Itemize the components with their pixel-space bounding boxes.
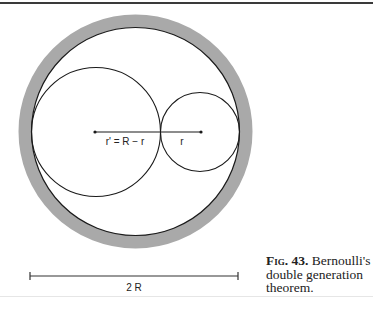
figure-number: Fig. 43.	[266, 253, 308, 268]
scale-label: 2 R	[126, 282, 142, 293]
big-radius-label: r' = R − r	[106, 136, 145, 147]
caption-line-3: theorem.	[266, 281, 373, 295]
large-center-dot	[93, 130, 96, 133]
figure-caption: Fig. 43. Bernoulli's double generation t…	[266, 254, 373, 295]
bottom-rule	[0, 296, 373, 297]
caption-line-2: double generation	[266, 268, 373, 282]
caption-text-1: Bernoulli's	[312, 253, 371, 268]
caption-line-1: Fig. 43. Bernoulli's	[266, 254, 373, 268]
small-radius-label: r	[180, 136, 184, 147]
small-center-dot	[199, 130, 202, 133]
